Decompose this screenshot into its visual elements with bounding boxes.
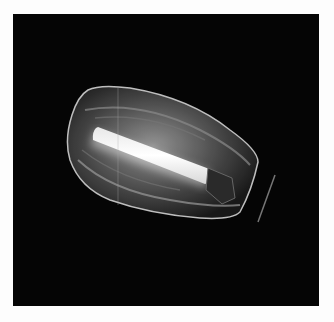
- lamp-photo: [13, 14, 319, 306]
- lamp-illustration: [13, 14, 319, 306]
